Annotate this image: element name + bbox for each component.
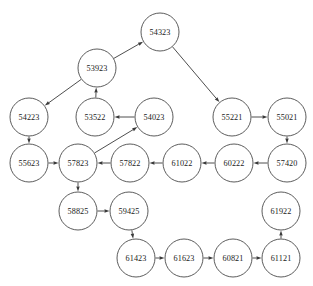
arrowhead-icon (209, 256, 214, 259)
graph-diagram: 5432353923542235352254023552215502155623… (0, 0, 313, 286)
graph-node-55623[interactable]: 55623 (10, 144, 48, 182)
arrowhead-icon (94, 87, 97, 92)
arrowhead-icon (254, 161, 259, 164)
edge-55623-to-57823 (49, 161, 59, 164)
edge-53923-to-54323 (114, 42, 143, 59)
arrowhead-icon (257, 256, 262, 259)
node-label: 55623 (19, 159, 40, 168)
graph-node-58825[interactable]: 58825 (59, 192, 97, 230)
graph-node-57420[interactable]: 57420 (268, 144, 306, 182)
graph-canvas: 5432353923542235352254023552215502155623… (0, 0, 313, 286)
edge-line (173, 47, 217, 98)
edge-60821-to-61121 (253, 256, 262, 259)
graph-node-54023[interactable]: 54023 (135, 98, 173, 136)
node-label: 53522 (85, 113, 106, 122)
node-label: 59425 (119, 207, 140, 216)
graph-node-57823[interactable]: 57823 (59, 144, 97, 182)
graph-node-55221[interactable]: 55221 (213, 98, 251, 136)
arrowhead-icon (131, 234, 134, 239)
edge-line (132, 230, 133, 233)
arrowhead-icon (160, 256, 165, 259)
node-label: 57823 (68, 159, 89, 168)
nodes-layer: 5432353923542235352254023552215502155623… (10, 13, 306, 277)
node-label: 53923 (87, 64, 108, 73)
edge-59425-to-61423 (131, 230, 134, 238)
node-label: 57822 (120, 159, 141, 168)
arrowhead-icon (279, 231, 282, 236)
edge-line (49, 79, 81, 102)
graph-node-55021[interactable]: 55021 (268, 98, 306, 136)
edge-54323-to-55221 (173, 47, 220, 102)
arrowhead-icon (76, 187, 79, 192)
node-label: 54023 (144, 113, 165, 122)
node-label: 55021 (277, 113, 298, 122)
arrowhead-icon (54, 161, 59, 164)
edge-57420-to-60222 (254, 161, 268, 164)
node-label: 54323 (150, 28, 171, 37)
edge-61623-to-60821 (204, 256, 214, 259)
arrowhead-icon (138, 42, 143, 46)
graph-node-61423[interactable]: 61423 (117, 239, 155, 277)
graph-node-54223[interactable]: 54223 (10, 98, 48, 136)
arrowhead-icon (150, 161, 155, 164)
edge-53923-to-54223 (45, 79, 81, 105)
arrowhead-icon (105, 209, 110, 212)
arrowhead-icon (285, 139, 288, 144)
graph-node-60821[interactable]: 60821 (214, 239, 252, 277)
node-label: 57420 (277, 159, 298, 168)
graph-node-61623[interactable]: 61623 (165, 239, 203, 277)
node-label: 60821 (223, 254, 244, 263)
arrowhead-icon (45, 101, 50, 105)
edge-line (114, 44, 139, 58)
arrowhead-icon (202, 161, 207, 164)
graph-node-59425[interactable]: 59425 (110, 192, 148, 230)
edge-57823-to-58825 (76, 183, 79, 192)
node-label: 61121 (271, 254, 292, 263)
graph-node-61922[interactable]: 61922 (262, 192, 300, 230)
arrowhead-icon (263, 115, 268, 118)
arrowhead-icon (98, 161, 103, 164)
edge-57822-to-57823 (98, 161, 111, 164)
arrowhead-icon (27, 139, 30, 144)
graph-node-61022[interactable]: 61022 (163, 144, 201, 182)
node-label: 61423 (126, 254, 147, 263)
graph-node-54323[interactable]: 54323 (141, 13, 179, 51)
arrowhead-icon (132, 127, 137, 131)
graph-node-61121[interactable]: 61121 (262, 239, 300, 277)
node-label: 61623 (174, 254, 195, 263)
node-label: 54223 (19, 113, 40, 122)
edge-61423-to-61623 (156, 256, 165, 259)
node-label: 58825 (68, 207, 89, 216)
node-label: 61922 (271, 207, 292, 216)
edge-58825-to-59425 (98, 209, 110, 212)
graph-node-53923[interactable]: 53923 (78, 49, 116, 87)
arrowhead-icon (115, 115, 120, 118)
graph-node-57822[interactable]: 57822 (111, 144, 149, 182)
edge-54023-to-53522 (115, 115, 135, 118)
edge-55221-to-55021 (252, 115, 268, 118)
node-label: 61022 (172, 159, 193, 168)
node-label: 55221 (222, 113, 243, 122)
edge-53522-to-53923 (94, 87, 97, 97)
edge-61121-to-61922 (279, 231, 282, 239)
edge-61022-to-57822 (150, 161, 163, 164)
graph-node-53522[interactable]: 53522 (76, 98, 114, 136)
edge-55021-to-57420 (285, 137, 288, 144)
edge-60222-to-61022 (202, 161, 215, 164)
edge-54223-to-55623 (27, 137, 30, 144)
node-label: 60222 (224, 159, 245, 168)
graph-node-60222[interactable]: 60222 (215, 144, 253, 182)
